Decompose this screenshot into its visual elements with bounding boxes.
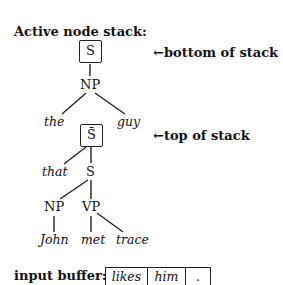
np-node: NP	[80, 77, 100, 92]
top-of-stack-annotation: ←top of stack	[153, 128, 250, 143]
bottom-of-stack-annotation: ←bottom of stack	[153, 45, 278, 60]
leaf-met: met	[81, 232, 105, 247]
stack-title: Active node stack:	[14, 24, 147, 39]
stack-top-node: S̄	[80, 124, 103, 147]
vp-node: VP	[82, 199, 100, 214]
leaf-guy: guy	[117, 114, 140, 129]
np-node-2: NP	[44, 199, 64, 214]
s-node: S	[86, 164, 95, 179]
leaf-that: that	[42, 164, 68, 179]
buffer-cell: .	[185, 267, 211, 285]
buffer-cell: likes	[105, 267, 148, 285]
buffer-cell: him	[147, 267, 186, 285]
input-buffer-label: input buffer:	[14, 268, 107, 283]
stack-bottom-node: S	[79, 40, 102, 63]
leaf-trace: trace	[116, 232, 149, 247]
leaf-the: the	[44, 114, 64, 129]
leaf-john: John	[40, 232, 69, 247]
